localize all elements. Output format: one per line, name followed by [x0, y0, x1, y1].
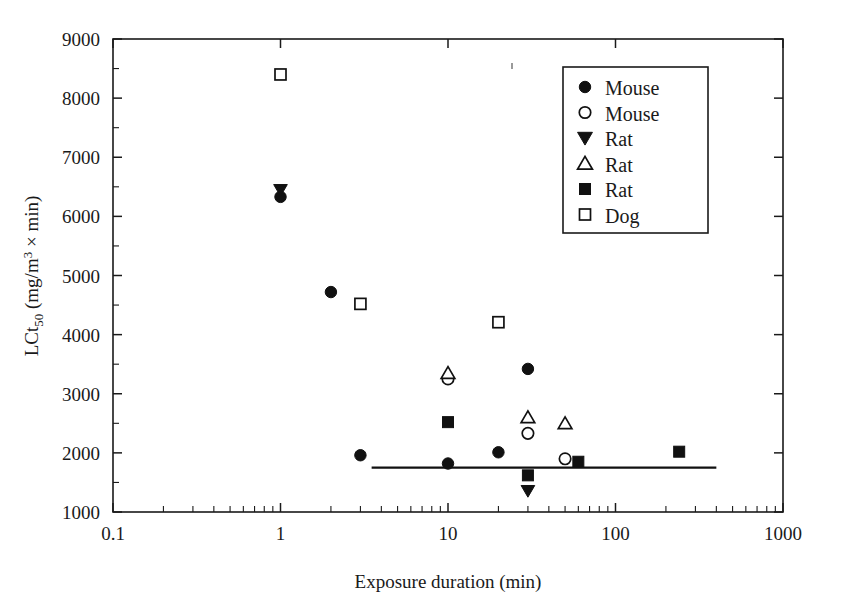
marker-open-up-triangle — [441, 367, 455, 379]
x-tick-label: 10 — [439, 523, 458, 544]
x-tick-label: 1 — [276, 523, 286, 544]
legend-label: Dog — [605, 205, 639, 228]
series-dog-open-square — [275, 69, 504, 328]
marker-filled-circle-legend — [579, 81, 590, 92]
marker-open-circle — [522, 428, 533, 439]
marker-open-square-legend — [580, 209, 591, 220]
marker-filled-circle — [493, 447, 504, 458]
marker-filled-square — [573, 456, 584, 467]
x-axis-tick-labels: 0.11101001000 — [101, 523, 802, 544]
marker-filled-circle — [355, 450, 366, 461]
y-axis-title-tail: × min) — [21, 196, 43, 252]
y-axis-title: LCt50 (mg/m3 × min) — [20, 196, 46, 357]
scatter-plot: 0.11101001000 10002000300040005000600070… — [0, 0, 842, 608]
y-axis-tick-labels: 100020003000400050006000700080009000 — [62, 29, 100, 523]
y-axis-title-lead: LCt — [21, 326, 42, 356]
x-tick-label: 1000 — [764, 523, 802, 544]
marker-filled-circle — [522, 363, 533, 374]
series-mouse-filled-circle — [275, 191, 534, 469]
scan-speck — [511, 63, 513, 69]
y-tick-label: 8000 — [62, 88, 100, 109]
marker-open-square — [355, 298, 366, 309]
marker-filled-circle — [325, 286, 336, 297]
y-tick-label: 6000 — [62, 206, 100, 227]
legend-label: Mouse — [605, 77, 660, 99]
legend-label: Rat — [605, 154, 633, 176]
y-tick-label: 1000 — [62, 502, 100, 523]
marker-filled-down-triangle — [521, 485, 535, 497]
marker-filled-square-legend — [580, 184, 591, 195]
y-tick-label: 9000 — [62, 29, 100, 50]
legend-label: Rat — [605, 128, 633, 150]
marker-filled-circle — [442, 458, 453, 469]
marker-filled-square — [674, 446, 685, 457]
chart-figure: 0.11101001000 10002000300040005000600070… — [0, 0, 842, 608]
x-tick-label: 100 — [601, 523, 630, 544]
chart-legend: MouseMouseRatRatRatDog — [563, 67, 708, 233]
marker-open-circle — [559, 453, 570, 464]
y-tick-label: 7000 — [62, 147, 100, 168]
marker-filled-square — [522, 470, 533, 481]
legend-label: Rat — [605, 179, 633, 201]
marker-open-up-triangle — [558, 417, 572, 429]
series-rat-open-up-triangle — [441, 367, 572, 429]
series-mouse-open-circle — [442, 373, 571, 464]
marker-filled-square — [443, 417, 454, 428]
y-tick-label: 4000 — [62, 325, 100, 346]
x-tick-label: 0.1 — [101, 523, 125, 544]
x-axis-title: Exposure duration (min) — [355, 571, 542, 593]
marker-open-circle-legend — [579, 107, 590, 118]
y-axis-title-subscript: 50 — [31, 314, 46, 327]
y-tick-label: 5000 — [62, 266, 100, 287]
marker-open-up-triangle — [521, 411, 535, 423]
y-tick-label: 3000 — [62, 384, 100, 405]
legend-label: Mouse — [605, 103, 660, 125]
y-tick-label: 2000 — [62, 443, 100, 464]
y-axis-title-mid: (mg/m — [21, 258, 43, 314]
marker-open-square — [493, 317, 504, 328]
marker-open-square — [275, 69, 286, 80]
